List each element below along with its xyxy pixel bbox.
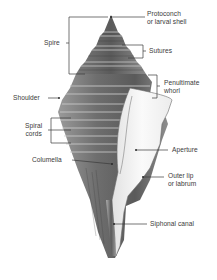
label-aperture: Aperture (172, 146, 198, 154)
label-penultimate-whorl: Penultimate whorl (164, 79, 199, 94)
label-spiral-cords: Spiral cords (25, 122, 42, 137)
label-protoconch-line2: or larval shell (147, 18, 187, 26)
label-protoconch-line1: Protoconch (147, 10, 187, 18)
label-protoconch: Protoconch or larval shell (147, 10, 187, 25)
label-penultimate-line1: Penultimate (164, 79, 199, 87)
spire-shape (76, 15, 146, 74)
label-siphonal-canal: Siphonal canal (150, 220, 194, 228)
shell-anatomy-diagram: Protoconch or larval shell Spire Sutures… (0, 0, 217, 280)
label-spire: Spire (44, 39, 60, 47)
label-columella: Columella (32, 156, 62, 164)
label-outer-lip-line1: Outer lip (168, 172, 196, 180)
label-penultimate-line2: whorl (164, 87, 199, 95)
label-spiral-cords-line2: cords (25, 130, 42, 138)
label-sutures: Sutures (149, 47, 172, 55)
label-outer-lip: Outer lip or labrum (168, 172, 196, 187)
label-shoulder: Shoulder (13, 94, 40, 102)
shell-illustration (0, 0, 217, 280)
label-spiral-cords-line1: Spiral (25, 122, 42, 130)
label-outer-lip-line2: or labrum (168, 180, 196, 188)
